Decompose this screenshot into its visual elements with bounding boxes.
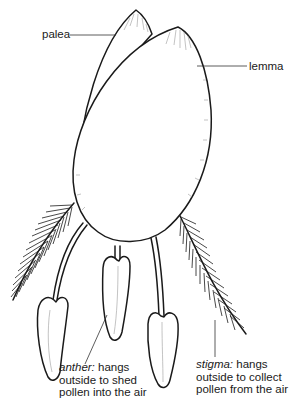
grass-flower-diagram: palea lemma anther: hangs outside to she… xyxy=(0,0,294,404)
anther-middle xyxy=(103,257,130,341)
stigma-label-line-3: pollen from the air xyxy=(196,383,288,396)
lemma-label: lemma xyxy=(249,60,284,73)
stigma-label: stigma: hangs outside to collect pollen … xyxy=(196,358,288,396)
stigma-label-line-2: outside to collect xyxy=(196,371,288,384)
stigma-left xyxy=(11,203,74,300)
stigma-label-line-1-rest: hangs xyxy=(233,358,268,370)
lemma xyxy=(73,27,211,242)
anther-term: anther: xyxy=(59,361,95,373)
anther-label: anther: hangs outside to shed pollen int… xyxy=(59,361,147,399)
stigma-right xyxy=(179,214,246,334)
anther-label-line-1: anther: hangs xyxy=(59,361,147,374)
palea-label: palea xyxy=(42,28,70,41)
anther-right xyxy=(148,313,178,388)
anther-leader-line xyxy=(85,315,107,364)
anther-label-line-1-rest: hangs xyxy=(95,361,130,373)
anther-label-line-3: pollen into the air xyxy=(59,386,147,399)
stigma-term: stigma: xyxy=(196,358,233,370)
stigma-label-line-1: stigma: hangs xyxy=(196,358,288,371)
anther-label-line-2: outside to shed xyxy=(59,374,147,387)
